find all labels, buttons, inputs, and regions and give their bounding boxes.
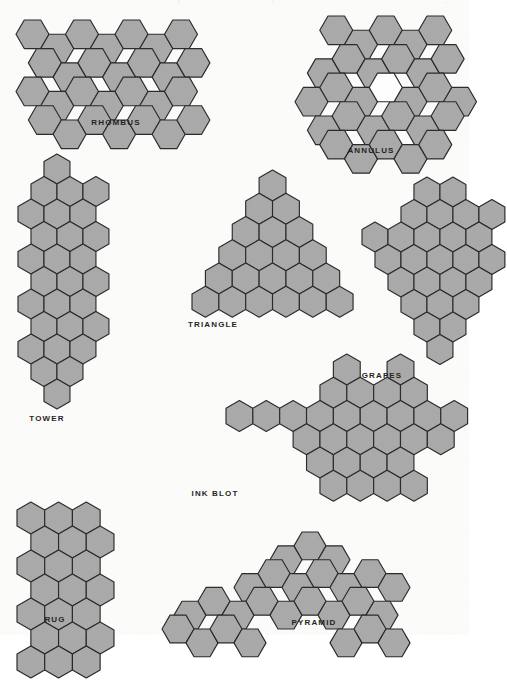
caption-annulus: ANNULUS	[347, 146, 394, 155]
shape-ink-blot-svg	[224, 352, 470, 503]
header-fragment-left: r	[178, 0, 181, 4]
shape-rhombus-svg	[14, 18, 212, 151]
header-fragment-right: ...	[443, 0, 451, 4]
header-fragment-mid: f	[272, 0, 275, 4]
caption-rhombus: RHOMBUS	[91, 118, 140, 127]
cropped-header-text: r f ...	[0, 0, 469, 10]
caption-ink-blot: INK BLOT	[192, 489, 239, 498]
shape-rug-svg	[15, 500, 116, 680]
shape-ink-blot	[224, 352, 470, 503]
caption-rug: RUG	[44, 615, 65, 624]
shape-tower	[16, 152, 111, 411]
hexagon-cell	[226, 401, 253, 432]
shape-triangle	[190, 168, 355, 319]
caption-grapes: GRAPES	[362, 371, 403, 380]
hexagon-cell	[253, 401, 280, 432]
shape-grapes	[360, 175, 507, 367]
shape-pyramid-svg	[160, 530, 412, 659]
shape-triangle-svg	[190, 168, 355, 319]
shape-rug	[15, 500, 116, 680]
shape-grapes-svg	[360, 175, 507, 367]
shape-tower-svg	[16, 152, 111, 411]
shape-pyramid	[160, 530, 412, 659]
caption-tower: TOWER	[29, 414, 64, 423]
caption-triangle: TRIANGLE	[188, 320, 238, 329]
caption-pyramid: PYRAMID	[292, 618, 337, 627]
shape-rhombus	[14, 18, 212, 151]
